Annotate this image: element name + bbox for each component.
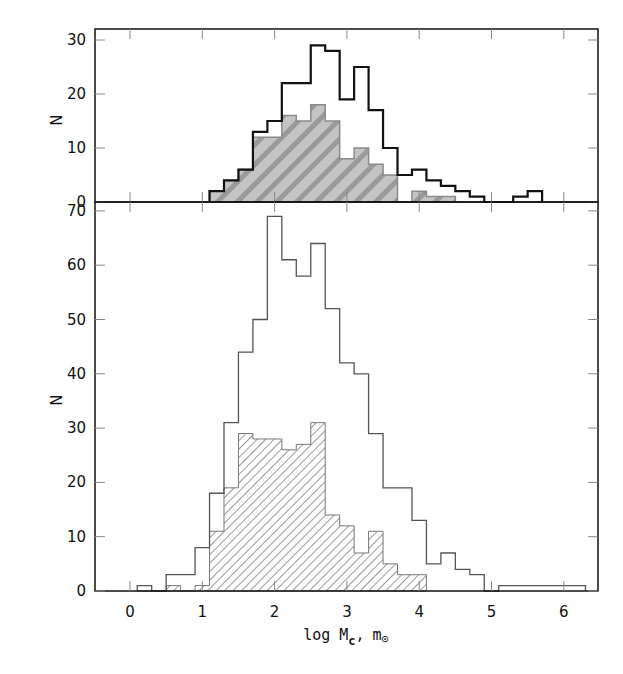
histogram-figure: 0102030 N 0123456010203040506070 N log M…: [0, 0, 623, 674]
y-tick-label: 30: [67, 31, 86, 49]
x-axis-title: log Mc,m⊙: [303, 626, 389, 648]
x-tick-label: 2: [270, 603, 280, 621]
y-tick-label: 40: [67, 365, 86, 383]
x-tick-label: 4: [414, 603, 424, 621]
y-tick-label: 10: [67, 528, 86, 546]
y-tick-label: 30: [67, 419, 86, 437]
bottom-histogram-bars: [137, 216, 585, 591]
y-tick-label: 20: [67, 85, 86, 103]
top-histogram-bars: [210, 45, 543, 202]
subset-histogram: [210, 105, 456, 202]
top-histogram-panel: 0102030 N: [48, 29, 598, 211]
x-tick-label: 3: [342, 603, 352, 621]
bottom-histogram-panel: 0123456010203040506070 N log Mc,m⊙: [48, 202, 598, 648]
total-histogram-outline: [137, 216, 585, 591]
y-tick-label: 0: [76, 582, 86, 600]
y-tick-label: 60: [67, 256, 86, 274]
x-tick-label: 0: [125, 603, 135, 621]
y-tick-label: 70: [67, 202, 86, 220]
top-y-axis-label: N: [48, 114, 66, 125]
y-tick-label: 10: [67, 139, 86, 157]
x-tick-label: 1: [198, 603, 208, 621]
y-tick-label: 20: [67, 473, 86, 491]
y-tick-label: 50: [67, 311, 86, 329]
bottom-y-axis-label: N: [48, 394, 66, 405]
x-tick-label: 5: [487, 603, 497, 621]
x-tick-label: 6: [559, 603, 569, 621]
